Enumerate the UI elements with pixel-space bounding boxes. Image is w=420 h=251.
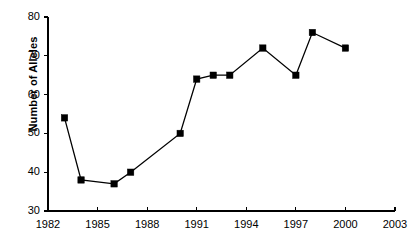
data-point-marker: 2000: 72 xyxy=(342,45,348,51)
data-point-marker: 1983: 54 xyxy=(61,115,67,121)
data-point-marker: 1991: 64 xyxy=(194,76,200,82)
data-point-marker: 1987: 40 xyxy=(127,169,133,175)
data-point-marker: 1993: 65 xyxy=(227,72,233,78)
data-point-marker: 1998: 76 xyxy=(309,29,315,35)
data-point-marker: 1995: 72 xyxy=(260,45,266,51)
chart-container: Number of Alleles 304050607080 198219851… xyxy=(0,0,420,251)
data-point-marker: 1990: 50 xyxy=(177,130,183,136)
data-markers: 1983: 541984: 381986: 371987: 401990: 50… xyxy=(61,29,348,187)
data-point-marker: 1986: 37 xyxy=(111,181,117,187)
plot-area: 1983: 541984: 381986: 371987: 401990: 50… xyxy=(0,0,420,251)
data-point-marker: 1997: 65 xyxy=(293,72,299,78)
data-point-marker: 1984: 38 xyxy=(78,177,84,183)
data-line-number-of-alleles xyxy=(65,33,346,184)
data-point-marker: 1992: 65 xyxy=(210,72,216,78)
